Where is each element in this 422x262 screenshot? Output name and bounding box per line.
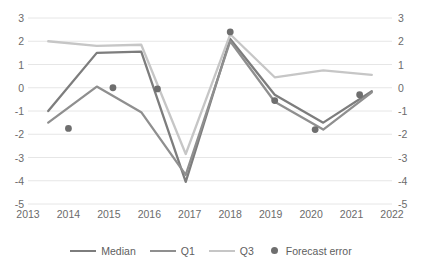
- y-tick-left-2: 2: [2, 36, 24, 47]
- x-tick-2019: 2019: [251, 209, 291, 220]
- y-tick-right-neg1: -1: [398, 106, 420, 117]
- y-tick-left-3: 3: [2, 13, 24, 24]
- legend-line-marker: [150, 250, 176, 252]
- chart-plot-area: [0, 0, 422, 262]
- y-tick-left-neg1: -1: [2, 106, 24, 117]
- x-tick-2018: 2018: [210, 209, 250, 220]
- legend-item-q3[interactable]: Q3: [209, 246, 254, 257]
- x-tick-2015: 2015: [89, 209, 129, 220]
- y-tick-right-neg2: -2: [398, 129, 420, 140]
- x-tick-2017: 2017: [170, 209, 210, 220]
- y-tick-right-2: 2: [398, 36, 420, 47]
- y-tick-right-3: 3: [398, 13, 420, 24]
- y-tick-left-0: 0: [2, 83, 24, 94]
- legend-item-median[interactable]: Median: [70, 246, 135, 257]
- x-tick-2016: 2016: [129, 209, 169, 220]
- y-tick-left-1: 1: [2, 60, 24, 71]
- y-tick-left-neg3: -3: [2, 153, 24, 164]
- legend-label: Median: [101, 246, 135, 257]
- series-layer: [48, 34, 372, 182]
- chart-legend: MedianQ1Q3Forecast error: [0, 246, 422, 257]
- legend-label: Forecast error: [286, 246, 352, 257]
- chart-container: 3210-1-2-3-4-5 3210-1-2-3-4-5 2013201420…: [0, 0, 422, 262]
- legend-dot-marker: [271, 247, 278, 254]
- x-tick-2022: 2022: [372, 209, 412, 220]
- legend-line-marker: [209, 250, 235, 252]
- legend-line-marker: [70, 250, 96, 252]
- x-tick-2014: 2014: [48, 209, 88, 220]
- y-tick-right-neg3: -3: [398, 153, 420, 164]
- legend-item-q1[interactable]: Q1: [150, 246, 195, 257]
- y-tick-right-1: 1: [398, 60, 420, 71]
- y-tick-right-0: 0: [398, 83, 420, 94]
- y-tick-right-neg4: -4: [398, 176, 420, 187]
- legend-item-forecast-error[interactable]: Forecast error: [268, 246, 352, 257]
- y-tick-left-neg2: -2: [2, 129, 24, 140]
- gridlines: [28, 18, 392, 204]
- x-tick-2013: 2013: [8, 209, 48, 220]
- y-tick-left-neg4: -4: [2, 176, 24, 187]
- legend-label: Q3: [240, 246, 254, 257]
- x-tick-2021: 2021: [332, 209, 372, 220]
- x-tick-2020: 2020: [291, 209, 331, 220]
- legend-label: Q1: [181, 246, 195, 257]
